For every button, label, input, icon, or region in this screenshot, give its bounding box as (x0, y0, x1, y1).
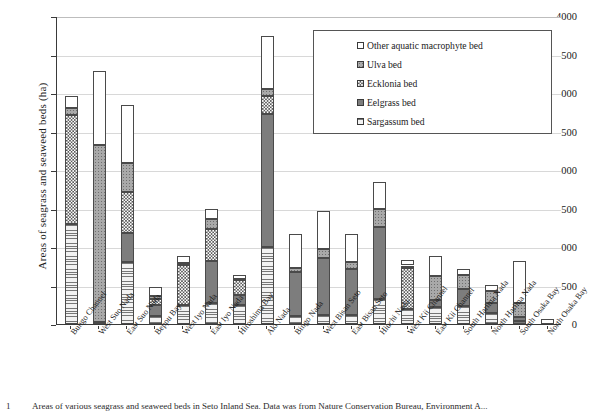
bar-segment[interactable] (177, 256, 190, 263)
bar-segment[interactable] (65, 96, 78, 108)
bar-segment[interactable] (401, 266, 414, 268)
bar-segment[interactable] (317, 211, 330, 249)
legend-item[interactable]: Ecklonia bed (357, 75, 417, 91)
legend-swatch (357, 42, 364, 49)
legend-swatch (357, 61, 364, 68)
bar-segment[interactable] (205, 209, 218, 220)
legend-label: Other aquatic macrophyte bed (367, 40, 483, 51)
bar-segment[interactable] (513, 317, 526, 321)
caption-number: 1 (6, 401, 32, 412)
bar-segment[interactable] (457, 269, 470, 275)
bar-segment[interactable] (429, 256, 442, 276)
bar-segment[interactable] (261, 96, 274, 114)
bar-segment[interactable] (373, 182, 386, 209)
legend-swatch (357, 118, 364, 125)
legend-label: Sargassum bed (367, 116, 425, 127)
bar-segment[interactable] (233, 275, 246, 279)
bar-segment[interactable] (205, 219, 218, 228)
bar-segment[interactable] (65, 108, 78, 115)
bar-segment[interactable] (373, 227, 386, 299)
y-axis-title-wrapper: Areas of seagrass and seaweed beds (ha) (8, 20, 28, 320)
y-axis-title: Areas of seagrass and seaweed beds (ha) (36, 46, 48, 306)
bar-segment[interactable] (373, 209, 386, 227)
bar-segment[interactable] (205, 229, 218, 261)
figure-caption: 1Areas of various seagrass and seaweed b… (6, 401, 577, 412)
bar-segment[interactable] (401, 260, 414, 265)
bar-segment[interactable] (121, 233, 134, 262)
bar-segment[interactable] (261, 36, 274, 89)
legend-label: Ecklonia bed (367, 78, 417, 89)
bar-segment[interactable] (65, 224, 78, 324)
legend: Other aquatic macrophyte bedUlva bedEckl… (313, 30, 552, 134)
legend-item[interactable]: Ulva bed (357, 56, 402, 72)
bar-segment[interactable] (345, 234, 358, 262)
bar-segment[interactable] (289, 272, 302, 315)
bar-segment[interactable] (93, 71, 106, 146)
legend-item[interactable]: Other aquatic macrophyte bed (357, 37, 483, 53)
bar-segment[interactable] (261, 114, 274, 247)
legend-item[interactable]: Sargassum bed (357, 113, 425, 129)
legend-swatch (357, 99, 364, 106)
legend-label: Eelgrass bed (367, 97, 416, 108)
bar-segment[interactable] (233, 280, 246, 295)
legend-item[interactable]: Eelgrass bed (357, 94, 416, 110)
bar-segment[interactable] (289, 268, 302, 273)
bar-segment[interactable] (317, 249, 330, 258)
x-axis-labels: Bungo ChannelWest Suo NadaEast Suo NadaB… (56, 326, 561, 401)
legend-swatch (357, 80, 364, 87)
bar-segment[interactable] (261, 89, 274, 96)
caption-text: Areas of various seagrass and seaweed be… (32, 401, 488, 411)
bar-segment[interactable] (121, 105, 134, 164)
legend-label: Ulva bed (367, 59, 402, 70)
bar-segment[interactable] (289, 234, 302, 268)
bar-segment[interactable] (177, 265, 190, 305)
bar-segment[interactable] (65, 115, 78, 224)
bar-segment[interactable] (345, 262, 358, 268)
bar-segment[interactable] (121, 192, 134, 234)
bar-segment[interactable] (121, 163, 134, 191)
